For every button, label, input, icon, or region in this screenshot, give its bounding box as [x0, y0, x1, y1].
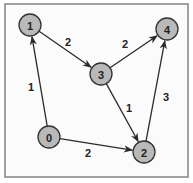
edge-weight-0-to-2: 2: [85, 147, 91, 159]
edge-weight-1-to-3: 2: [65, 36, 71, 48]
node-label: 4: [164, 24, 171, 36]
node-label: 0: [46, 132, 52, 144]
node-2: 2: [133, 141, 155, 163]
graph-diagram: 122213 01234: [0, 0, 193, 183]
edge-weight-3-to-2: 1: [126, 102, 132, 114]
node-1: 1: [19, 14, 41, 36]
edge-weight-2-to-4: 3: [163, 91, 169, 103]
edge-weight-0-to-1: 1: [28, 81, 34, 93]
edge-weight-3-to-4: 2: [122, 38, 128, 50]
node-4: 4: [156, 18, 178, 40]
node-label: 3: [98, 69, 104, 81]
node-label: 2: [141, 147, 147, 159]
node-label: 1: [27, 20, 33, 32]
node-0: 0: [38, 126, 60, 148]
node-3: 3: [90, 63, 112, 85]
